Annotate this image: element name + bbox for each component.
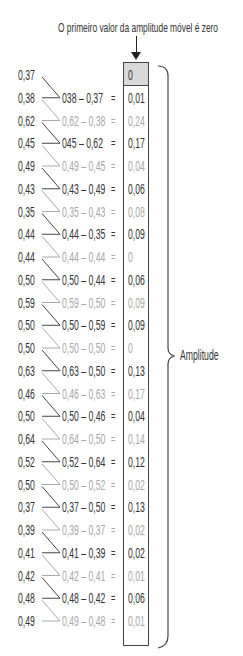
difference-expression: 0,50 – 0,44	[62, 272, 132, 288]
observed-value: 0,50	[18, 408, 45, 424]
observed-value: 0,62	[18, 113, 45, 129]
moving-range-value: 0,01	[128, 90, 155, 106]
observed-value: 0,41	[18, 545, 45, 561]
equals-sign: =	[111, 545, 118, 561]
difference-expression: 0,44 – 0,35	[62, 226, 132, 242]
equals-sign: =	[111, 113, 118, 129]
difference-expression: 0,35 – 0,43	[62, 204, 132, 220]
equals-sign: =	[111, 568, 118, 584]
difference-expression: 0,50 – 0,59	[62, 317, 132, 333]
difference-expression: 0,64 – 0,50	[62, 431, 132, 447]
equals-sign: =	[111, 295, 118, 311]
equals-sign: =	[111, 317, 118, 333]
moving-range-value: 0,09	[128, 226, 155, 242]
observed-value: 0,49	[18, 613, 45, 629]
observed-value: 0,63	[18, 363, 45, 379]
observed-value: 0,50	[18, 272, 45, 288]
observed-value: 0,50	[18, 477, 45, 493]
observed-value: 0,50	[18, 317, 45, 333]
observed-value: 0,45	[18, 135, 45, 151]
difference-expression: 0,46 – 0,63	[62, 386, 132, 402]
difference-expression: 0,49 – 0,48	[62, 613, 132, 629]
observed-value: 0,59	[18, 295, 45, 311]
amplitude-label: Amplitude	[180, 347, 242, 363]
observed-value: 0,35	[18, 204, 45, 220]
equals-sign: =	[111, 522, 118, 538]
observed-value: 0,42	[18, 568, 45, 584]
moving-range-value: 0,06	[128, 272, 155, 288]
difference-expression: 0,59 – 0,50	[62, 295, 132, 311]
moving-range-value: 0,13	[128, 499, 155, 515]
equals-sign: =	[111, 386, 118, 402]
moving-range-value: 0,01	[128, 568, 155, 584]
moving-range-value: 0,17	[128, 135, 155, 151]
equals-sign: =	[111, 272, 118, 288]
equals-sign: =	[111, 181, 118, 197]
equals-sign: =	[111, 363, 118, 379]
equals-sign: =	[111, 135, 118, 151]
moving-range-value: 0,01	[128, 613, 155, 629]
moving-range-value: 0,06	[128, 181, 155, 197]
moving-range-value: 0,09	[128, 317, 155, 333]
difference-expression: 0,62 – 0,38	[62, 113, 132, 129]
equals-sign: =	[111, 590, 118, 606]
difference-expression: 0,37 – 0,50	[62, 499, 132, 515]
equals-sign: =	[111, 454, 118, 470]
observed-value: 0,50	[18, 340, 45, 356]
equals-sign: =	[111, 431, 118, 447]
moving-range-value: 0	[128, 249, 136, 265]
equals-sign: =	[111, 477, 118, 493]
equals-sign: =	[111, 340, 118, 356]
difference-expression: 045 – 0,62	[62, 135, 128, 151]
equals-sign: =	[111, 249, 118, 265]
equals-sign: =	[111, 613, 118, 629]
difference-expression: 0,42 – 0,41	[62, 568, 132, 584]
observed-value: 0,46	[18, 386, 45, 402]
moving-range-value: 0,04	[128, 408, 155, 424]
difference-expression: 0,52 – 0,64	[62, 454, 132, 470]
difference-expression: 0,43 – 0,49	[62, 181, 132, 197]
moving-range-value: 0,02	[128, 545, 155, 561]
difference-expression: 0,41 – 0,39	[62, 545, 132, 561]
equals-sign: =	[111, 408, 118, 424]
observed-value: 0,39	[18, 522, 45, 538]
moving-range-value: 0,12	[128, 454, 155, 470]
moving-range-value: 0,17	[128, 386, 155, 402]
observed-value: 0,38	[18, 90, 45, 106]
difference-expression: 0,48 – 0,42	[62, 590, 132, 606]
observed-value: 0,52	[18, 454, 45, 470]
equals-sign: =	[111, 158, 118, 174]
difference-expression: 0,50 – 0,46	[62, 408, 132, 424]
difference-expression: 0,50 – 0,50	[62, 340, 132, 356]
moving-range-value: 0,09	[128, 295, 155, 311]
observed-value: 0,37	[18, 499, 45, 515]
equals-sign: =	[111, 499, 118, 515]
observed-value: 0,37	[18, 67, 45, 83]
difference-expression: 038 – 0,37	[62, 90, 128, 106]
moving-range-value: 0	[128, 67, 136, 83]
difference-expression: 0,50 – 0,52	[62, 477, 132, 493]
moving-range-value: 0,04	[128, 158, 155, 174]
moving-range-value: 0,13	[128, 363, 155, 379]
equals-sign: =	[111, 226, 118, 242]
difference-expression: 0,39 – 0,37	[62, 522, 132, 538]
observed-value: 0,48	[18, 590, 45, 606]
observed-value: 0,44	[18, 249, 45, 265]
equals-sign: =	[111, 90, 118, 106]
moving-range-value: 0	[128, 340, 136, 356]
moving-range-value: 0,02	[128, 522, 155, 538]
observed-value: 0,43	[18, 181, 45, 197]
difference-expression: 0,63 – 0,50	[62, 363, 132, 379]
moving-range-value: 0,06	[128, 590, 155, 606]
difference-expression: 0,49 – 0,45	[62, 158, 132, 174]
moving-range-value: 0,24	[128, 113, 155, 129]
moving-range-value: 0,08	[128, 204, 155, 220]
moving-range-value: 0,14	[128, 431, 155, 447]
equals-sign: =	[111, 204, 118, 220]
observed-value: 0,49	[18, 158, 45, 174]
difference-expression: 0,44 – 0,44	[62, 249, 132, 265]
observed-value: 0,64	[18, 431, 45, 447]
moving-range-value: 0,02	[128, 477, 155, 493]
observed-value: 0,44	[18, 226, 45, 242]
